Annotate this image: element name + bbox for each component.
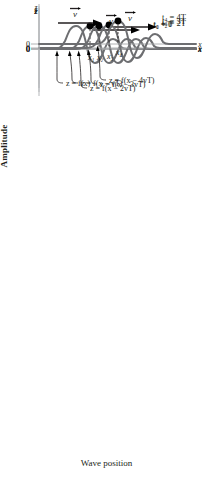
function-label: z = f(x − 4vT): [109, 76, 155, 85]
z-axis-tick-label: z: [34, 3, 38, 12]
x-axis-caption: Wave position: [0, 458, 213, 468]
zero-tick-label: 0: [26, 40, 30, 49]
function-leader-line: [96, 46, 106, 81]
peak-marker-dot: [115, 18, 122, 25]
peak-position-label: x₄: [115, 48, 123, 57]
time-label: t₄ = 4T: [162, 12, 187, 22]
x-axis-tick-label: x: [197, 40, 202, 49]
wave-propagation-figure: Amplitude z 0 x v t₀ = 0: [0, 0, 213, 479]
velocity-vector-label: v: [70, 7, 81, 19]
y-axis-label: Amplitude: [0, 96, 9, 196]
velocity-arrow: [58, 20, 102, 27]
panel-t4: z 0 x x₄ v t₄ = 4T z = f(x − 4v: [0, 0, 213, 90]
svg-text:v: v: [73, 9, 77, 19]
